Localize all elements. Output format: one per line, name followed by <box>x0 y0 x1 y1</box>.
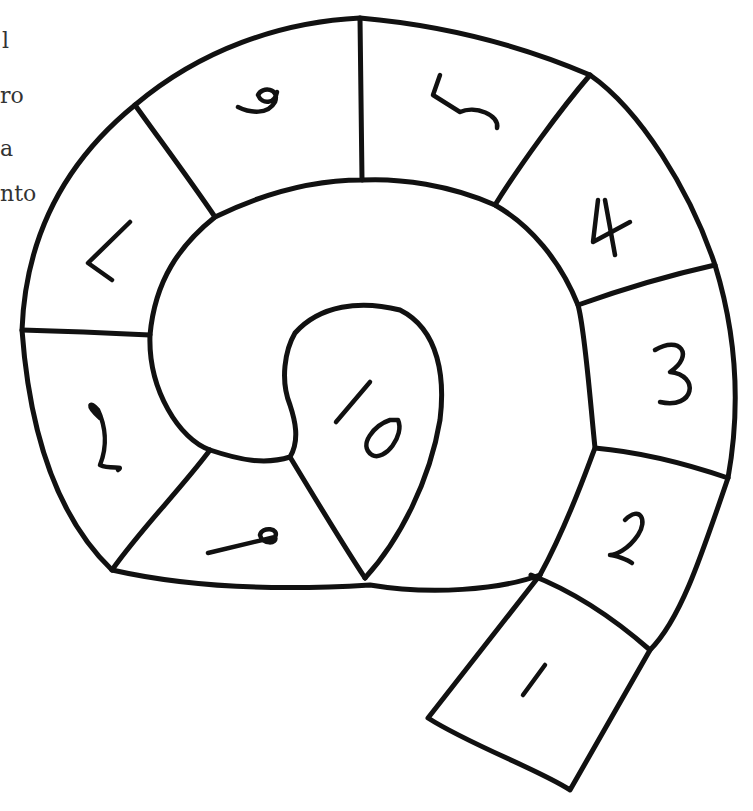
square-1[interactable] <box>523 665 545 695</box>
divider-4-5 <box>495 75 590 205</box>
spiral-outer-edge <box>22 18 735 790</box>
square-5[interactable] <box>433 75 497 128</box>
spiral-inner-edge <box>150 180 595 578</box>
divider-8-9 <box>112 450 210 570</box>
square-8[interactable] <box>90 405 119 470</box>
divider-3-4 <box>578 265 715 305</box>
square-3[interactable] <box>655 345 690 403</box>
divider-9-10 <box>290 457 365 578</box>
square-10[interactable] <box>336 382 399 456</box>
divider-5-6 <box>360 18 362 180</box>
divider-6-7 <box>135 105 215 217</box>
divider-7-8 <box>22 330 150 335</box>
divider-1-2 <box>531 575 650 650</box>
spiral-board <box>0 0 753 811</box>
square-4[interactable] <box>593 200 630 255</box>
divider-2-3 <box>595 448 728 478</box>
square-6[interactable] <box>238 90 277 112</box>
square-9[interactable] <box>208 529 276 553</box>
square-7[interactable] <box>88 222 130 280</box>
square-2[interactable] <box>610 514 642 563</box>
